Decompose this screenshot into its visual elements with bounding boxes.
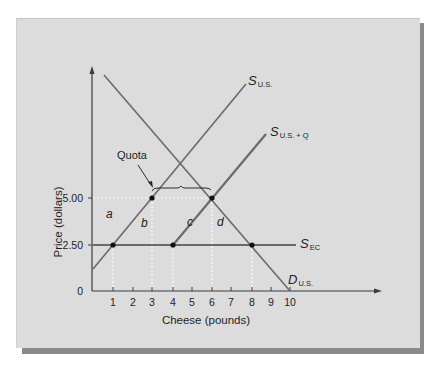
x-tick-label: 8: [249, 296, 255, 308]
s-us-plus-quota-label: SU.S. + Q: [270, 124, 309, 140]
x-tick-label: 9: [268, 296, 274, 308]
supply-demand-diagram: 1 2 3 4 5 6 7 8 9 10 0 2.50 5.00 Cheese …: [0, 0, 440, 371]
supply-us-line: [93, 84, 246, 269]
area-c-label: c: [187, 215, 193, 229]
y-tick-label-high: 5.00: [63, 192, 84, 204]
x-axis-arrow-icon: [374, 289, 382, 294]
area-a-label: a: [106, 207, 113, 221]
x-tick-label: 1: [110, 296, 116, 308]
x-tick-label: 2: [130, 296, 136, 308]
x-tick-label: 7: [228, 296, 234, 308]
x-tick-label: 4: [170, 296, 176, 308]
y-tick-label-low: 2.50: [63, 239, 84, 251]
demand-us-line: [104, 75, 290, 291]
quota-arrowhead-icon: [148, 181, 153, 188]
x-tick-label: 3: [149, 296, 155, 308]
x-tick-label: 6: [209, 296, 215, 308]
y-tick-label-zero: 0: [77, 285, 83, 297]
x-tick-label: 5: [189, 296, 195, 308]
d-us-label: DU.S.: [288, 272, 313, 288]
quota-label: Quota: [117, 149, 148, 161]
area-b-label: b: [141, 216, 148, 230]
y-axis-arrow-icon: [90, 66, 95, 74]
x-axis-title: Cheese (pounds): [162, 314, 250, 326]
s-us-label: SU.S.: [248, 73, 272, 89]
s-ec-label: SEC: [300, 236, 321, 252]
y-axis-title: Price (dollars): [52, 186, 64, 257]
area-d-label: d: [217, 215, 224, 229]
x-tick-label: 10: [284, 296, 296, 308]
